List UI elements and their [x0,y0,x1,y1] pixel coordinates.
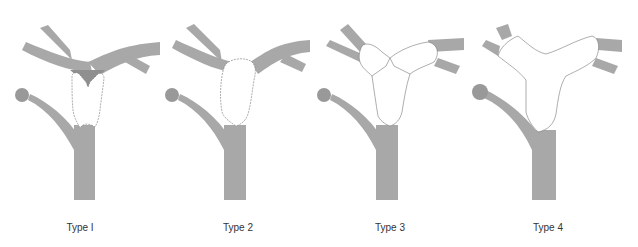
panel-type-4: Type 4 [468,0,628,247]
panel-label: Type 4 [468,222,628,233]
vessel-diagram-type-1 [0,0,160,247]
panel-type-1: Type I [0,0,160,247]
vessel-diagram-type-4 [468,0,628,247]
panel-type-2: Type 2 [158,0,318,247]
panel-type-3: Type 3 [310,0,470,247]
panel-label: Type I [0,222,160,233]
panel-label: Type 2 [158,222,318,233]
vessel-diagram-type-2 [158,0,318,247]
panel-label: Type 3 [310,222,470,233]
vessel-diagram-type-3 [310,0,470,247]
